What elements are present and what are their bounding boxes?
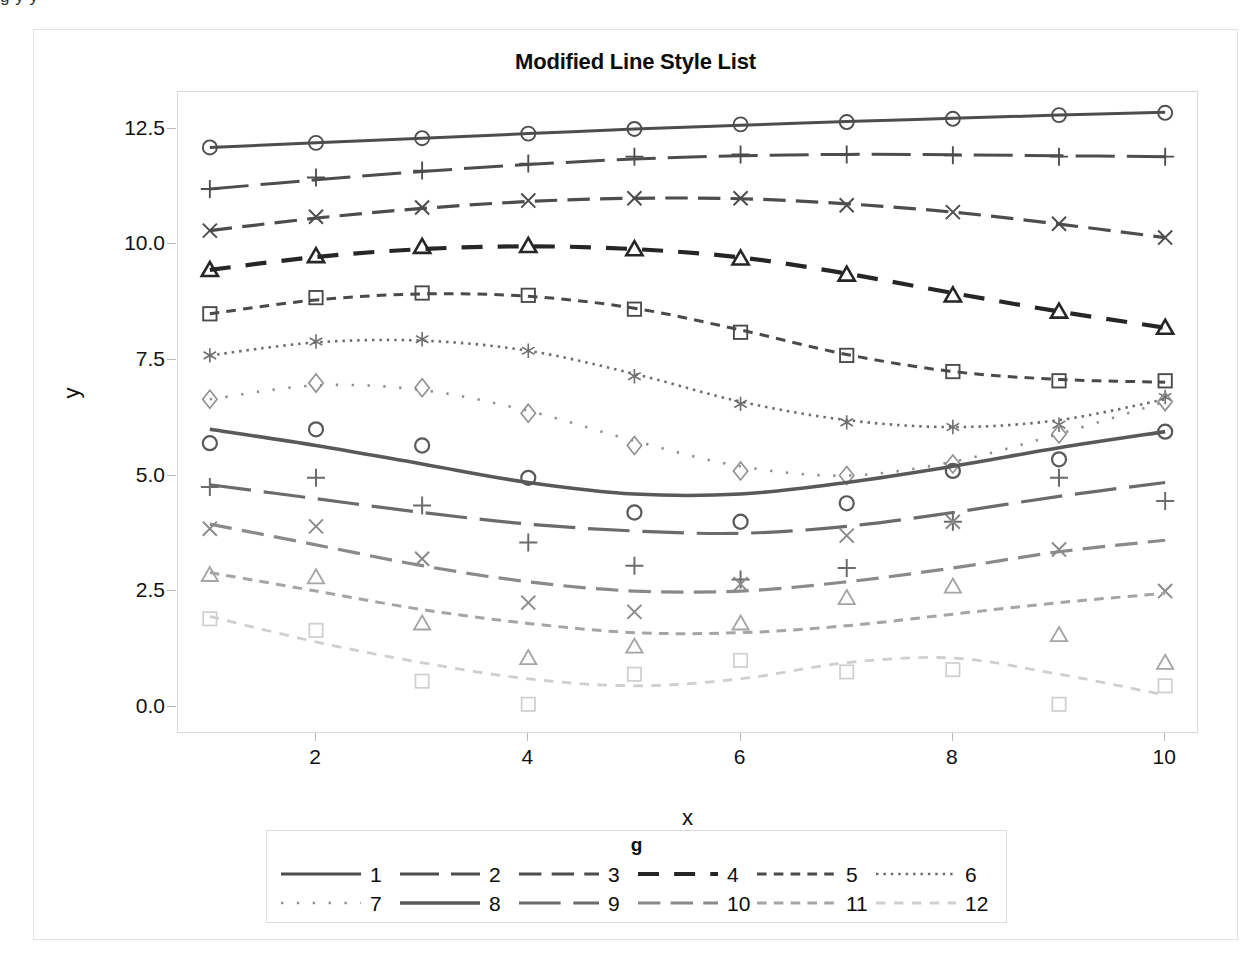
legend-label: 1 bbox=[370, 864, 382, 885]
data-point-marker-diamond bbox=[521, 404, 535, 422]
data-point-marker-plus bbox=[732, 571, 750, 589]
data-point-marker-circle bbox=[734, 515, 748, 529]
x-axis-tick-mark bbox=[952, 732, 953, 741]
legend-row: 789101112 bbox=[279, 888, 995, 918]
data-point-marker-triangle bbox=[626, 241, 642, 255]
x-axis-tick-label: 4 bbox=[521, 745, 533, 769]
data-point-marker-plus bbox=[1156, 148, 1174, 166]
data-point-marker-x bbox=[309, 519, 323, 533]
legend-swatch-icon bbox=[398, 896, 482, 910]
legend-label: 8 bbox=[489, 893, 501, 914]
data-point-marker-triangle bbox=[414, 239, 430, 253]
data-point-marker-square bbox=[628, 668, 641, 681]
legend-label: 7 bbox=[370, 893, 382, 914]
legend-item-10[interactable]: 10 bbox=[636, 893, 755, 914]
y-axis-tick-mark bbox=[167, 475, 176, 476]
data-point-marker-diamond bbox=[415, 379, 429, 397]
data-point-marker-plus bbox=[1050, 469, 1068, 487]
data-point-marker-plus bbox=[625, 557, 643, 575]
data-point-marker-plus bbox=[519, 155, 537, 173]
legend-item-9[interactable]: 9 bbox=[517, 893, 636, 914]
legend-swatch-icon bbox=[279, 896, 363, 910]
series-12 bbox=[203, 612, 1172, 711]
data-point-marker-x bbox=[840, 198, 854, 212]
y-axis-tick-label: 12.5 bbox=[93, 116, 165, 140]
legend-label: 3 bbox=[608, 864, 620, 885]
x-axis-tick-label: 6 bbox=[734, 745, 746, 769]
data-point-marker-asterisk bbox=[522, 344, 535, 358]
data-point-marker-square bbox=[1158, 679, 1171, 692]
legend-label: 9 bbox=[608, 893, 620, 914]
series-line bbox=[210, 385, 1165, 476]
legend-item-4[interactable]: 4 bbox=[636, 864, 755, 885]
data-point-marker-circle bbox=[309, 422, 323, 436]
series-line bbox=[210, 524, 1165, 592]
data-point-marker-circle bbox=[1052, 452, 1066, 466]
series-10 bbox=[203, 515, 1172, 619]
series-line bbox=[210, 112, 1165, 147]
legend-item-8[interactable]: 8 bbox=[398, 893, 517, 914]
legend-item-1[interactable]: 1 bbox=[279, 864, 398, 885]
series-11 bbox=[202, 567, 1174, 669]
legend-item-5[interactable]: 5 bbox=[755, 864, 874, 885]
legend-label: 6 bbox=[965, 864, 977, 885]
legend-item-11[interactable]: 11 bbox=[755, 893, 874, 914]
legend-item-12[interactable]: 12 bbox=[874, 893, 993, 914]
data-point-marker-plus bbox=[519, 534, 537, 552]
data-point-marker-plus bbox=[1050, 148, 1068, 166]
data-point-marker-square bbox=[309, 624, 322, 637]
legend-swatch-icon bbox=[755, 867, 839, 881]
legend-swatch-icon bbox=[279, 867, 363, 881]
y-axis-tick-label: 5.0 bbox=[93, 463, 165, 487]
legend-swatch-icon bbox=[874, 896, 958, 910]
series-4 bbox=[202, 238, 1174, 334]
data-point-marker-square bbox=[840, 665, 853, 678]
data-point-marker-triangle bbox=[414, 615, 430, 629]
y-axis-tick-mark bbox=[167, 243, 176, 244]
x-axis-tick-mark bbox=[527, 732, 528, 741]
y-axis-tick-label: 0.0 bbox=[93, 694, 165, 718]
series-line bbox=[210, 482, 1165, 533]
legend-label: 4 bbox=[727, 864, 739, 885]
plot-svg bbox=[178, 92, 1197, 732]
data-point-marker-asterisk bbox=[840, 415, 853, 429]
data-point-marker-plus bbox=[201, 478, 219, 496]
data-point-marker-triangle bbox=[839, 590, 855, 604]
data-point-marker-plus bbox=[307, 168, 325, 186]
legend-item-6[interactable]: 6 bbox=[874, 864, 993, 885]
legend-item-2[interactable]: 2 bbox=[398, 864, 517, 885]
legend-swatch-icon bbox=[636, 867, 720, 881]
series-1 bbox=[203, 106, 1172, 155]
x-axis-tick-mark bbox=[1164, 732, 1165, 741]
data-point-marker-asterisk bbox=[734, 397, 747, 411]
data-point-marker-circle bbox=[627, 505, 641, 519]
series-line bbox=[210, 294, 1165, 382]
data-point-marker-triangle bbox=[732, 615, 748, 629]
data-point-marker-triangle bbox=[520, 650, 536, 664]
series-line bbox=[210, 616, 1165, 695]
y-axis-tick-mark bbox=[167, 590, 176, 591]
x-axis-tick-label: 10 bbox=[1152, 745, 1175, 769]
data-point-marker-triangle bbox=[945, 287, 961, 301]
series-5 bbox=[203, 286, 1172, 387]
data-point-marker-square bbox=[522, 698, 535, 711]
data-point-marker-asterisk bbox=[204, 348, 217, 362]
legend-swatch-icon bbox=[755, 896, 839, 910]
data-point-marker-plus bbox=[625, 148, 643, 166]
data-point-marker-x bbox=[840, 529, 854, 543]
x-axis-tick-label: 8 bbox=[946, 745, 958, 769]
data-point-marker-square bbox=[1052, 698, 1065, 711]
x-axis-tick-mark bbox=[740, 732, 741, 741]
legend-item-7[interactable]: 7 bbox=[279, 893, 398, 914]
data-point-marker-circle bbox=[840, 496, 854, 510]
series-8 bbox=[203, 422, 1172, 528]
y-axis-tick-mark bbox=[167, 706, 176, 707]
data-point-marker-triangle bbox=[626, 639, 642, 653]
data-point-marker-diamond bbox=[627, 437, 641, 455]
data-point-marker-x bbox=[521, 596, 535, 610]
data-point-marker-x bbox=[1052, 542, 1066, 556]
legend-swatch-icon bbox=[517, 867, 601, 881]
y-axis-tick-label: 7.5 bbox=[93, 347, 165, 371]
x-axis-title: x bbox=[177, 805, 1198, 831]
legend-item-3[interactable]: 3 bbox=[517, 864, 636, 885]
